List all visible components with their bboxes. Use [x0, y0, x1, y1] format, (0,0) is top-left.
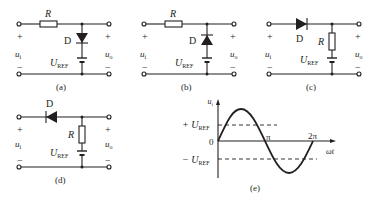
circuit-b: R D + − + − ui uo UREF (b)	[140, 8, 238, 92]
resistor-icon	[329, 33, 335, 50]
input-minus: −	[17, 155, 23, 166]
output-voltage-label: uo	[105, 139, 113, 150]
resistor-icon	[79, 126, 85, 143]
positive-reference-label: + UREF	[182, 119, 210, 131]
reference-voltage-label: UREF	[50, 147, 69, 159]
input-terminal-top	[142, 22, 146, 26]
reference-voltage-label: UREF	[300, 54, 319, 66]
output-terminal-top	[107, 115, 111, 119]
input-terminal-top	[17, 22, 21, 26]
waveform-e: ui ωt 0 π 2π + UREF − UREF (e)	[182, 97, 336, 193]
caption-a: (a)	[56, 82, 66, 92]
output-voltage-label: uo	[355, 49, 363, 60]
diagram-canvas: R D + − + − ui uo UREF (a) R D + − + − u…	[0, 0, 379, 203]
resistor-icon	[165, 21, 182, 27]
resistor-icon	[40, 21, 57, 27]
y-axis-label: ui	[208, 97, 214, 107]
input-plus: +	[267, 31, 273, 42]
output-plus: +	[355, 31, 361, 42]
circuit-a: R D + − + − ui uo UREF (a)	[15, 8, 113, 92]
input-voltage-label: ui	[15, 139, 22, 150]
input-voltage-label: ui	[15, 49, 22, 60]
input-voltage-label: ui	[265, 49, 272, 60]
input-voltage-label: ui	[140, 49, 147, 60]
input-plus: +	[142, 31, 148, 42]
output-minus: −	[105, 62, 111, 73]
output-voltage-label: uo	[230, 49, 238, 60]
caption-d: (d)	[55, 175, 66, 185]
input-minus: −	[142, 62, 148, 73]
output-minus: −	[355, 62, 361, 73]
diode-label: D	[296, 33, 303, 44]
output-plus: +	[105, 124, 111, 135]
tick-pi-label: π	[266, 132, 271, 142]
tick-2pi-label: 2π	[308, 131, 318, 141]
circuit-c: D R + − + − ui uo UREF (c)	[265, 18, 363, 92]
negative-reference-label: − UREF	[182, 154, 210, 166]
caption-c: (c)	[306, 82, 316, 92]
diode-icon	[201, 35, 213, 45]
caption-e: (e)	[250, 183, 260, 193]
reference-voltage-label: UREF	[175, 57, 194, 69]
x-axis-arrow-icon	[330, 139, 336, 143]
input-plus: +	[17, 124, 23, 135]
y-axis-arrow-icon	[216, 99, 220, 105]
output-terminal-top	[357, 22, 361, 26]
resistor-label: R	[44, 8, 51, 19]
resistor-label: R	[169, 8, 176, 19]
input-minus: −	[267, 62, 273, 73]
output-terminal-top	[107, 22, 111, 26]
output-voltage-label: uo	[105, 49, 113, 60]
diode-icon	[296, 18, 307, 30]
output-terminal-top	[232, 22, 236, 26]
output-minus: −	[105, 155, 111, 166]
caption-b: (b)	[181, 82, 192, 92]
input-minus: −	[17, 62, 23, 73]
output-minus: −	[230, 62, 236, 73]
diode-label: D	[189, 35, 196, 46]
resistor-label: R	[317, 36, 324, 47]
x-axis-label: ωt	[326, 147, 335, 156]
input-terminal-top	[17, 115, 21, 119]
reference-voltage-label: UREF	[50, 57, 69, 69]
diode-label: D	[46, 98, 53, 109]
origin-label: 0	[209, 137, 214, 147]
diode-label: D	[64, 35, 71, 46]
diode-icon	[76, 33, 88, 43]
circuit-d: D R + − + − ui uo UREF (d)	[15, 98, 113, 185]
output-plus: +	[105, 31, 111, 42]
resistor-label: R	[67, 129, 74, 140]
input-plus: +	[17, 31, 23, 42]
input-terminal-top	[267, 22, 271, 26]
diode-icon	[46, 111, 57, 123]
output-plus: +	[230, 31, 236, 42]
